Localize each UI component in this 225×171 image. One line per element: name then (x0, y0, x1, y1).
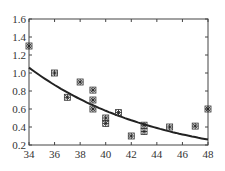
data-point-marker (141, 122, 147, 128)
plot-frame (29, 19, 208, 145)
data-point-marker (90, 97, 96, 103)
data-point-marker (116, 110, 122, 116)
fitted-curve (29, 68, 208, 140)
x-axis: 3436384042444648 (24, 19, 215, 160)
y-tick-label: 0.4 (12, 121, 26, 133)
x-tick-label: 42 (126, 148, 137, 160)
y-tick-label: 1.4 (12, 31, 26, 43)
y-tick-label: 0.6 (12, 103, 26, 115)
scatter-chart: 0.20.40.60.81.01.21.41.6 343638404244464… (0, 0, 225, 171)
y-tick-label: 1.2 (12, 49, 26, 61)
x-tick-label: 44 (151, 148, 163, 160)
data-point-marker (64, 94, 70, 100)
data-points (26, 43, 211, 139)
y-tick-label: 0.8 (12, 85, 26, 97)
data-point-marker (192, 123, 198, 129)
x-tick-label: 34 (24, 148, 36, 160)
data-point-marker (90, 106, 96, 112)
x-tick-label: 38 (75, 148, 87, 160)
data-point-marker (205, 106, 211, 112)
data-point-marker (128, 133, 134, 139)
data-point-marker (103, 120, 109, 126)
data-point-marker (52, 70, 58, 76)
data-point-marker (26, 43, 32, 49)
y-tick-label: 1.0 (12, 67, 26, 79)
y-tick-label: 1.6 (12, 13, 26, 25)
x-tick-label: 36 (49, 148, 61, 160)
data-point-marker (141, 129, 147, 135)
x-tick-label: 46 (177, 148, 189, 160)
x-tick-label: 48 (203, 148, 215, 160)
data-point-marker (90, 87, 96, 93)
y-axis: 0.20.40.60.81.01.21.41.6 (12, 13, 208, 151)
data-point-marker (167, 124, 173, 130)
x-tick-label: 40 (100, 148, 112, 160)
data-point-marker (77, 79, 83, 85)
